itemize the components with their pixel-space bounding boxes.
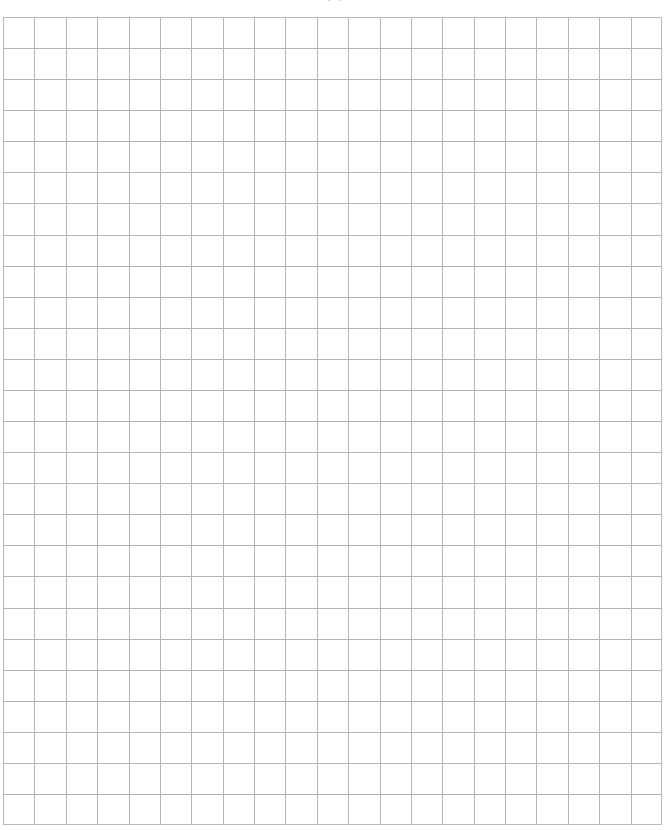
- page-canvas: y g: [0, 0, 670, 830]
- grid-lines-svg: [3, 17, 662, 825]
- header-partial-text: y g: [0, 0, 670, 1]
- graph-paper-grid: [3, 17, 662, 825]
